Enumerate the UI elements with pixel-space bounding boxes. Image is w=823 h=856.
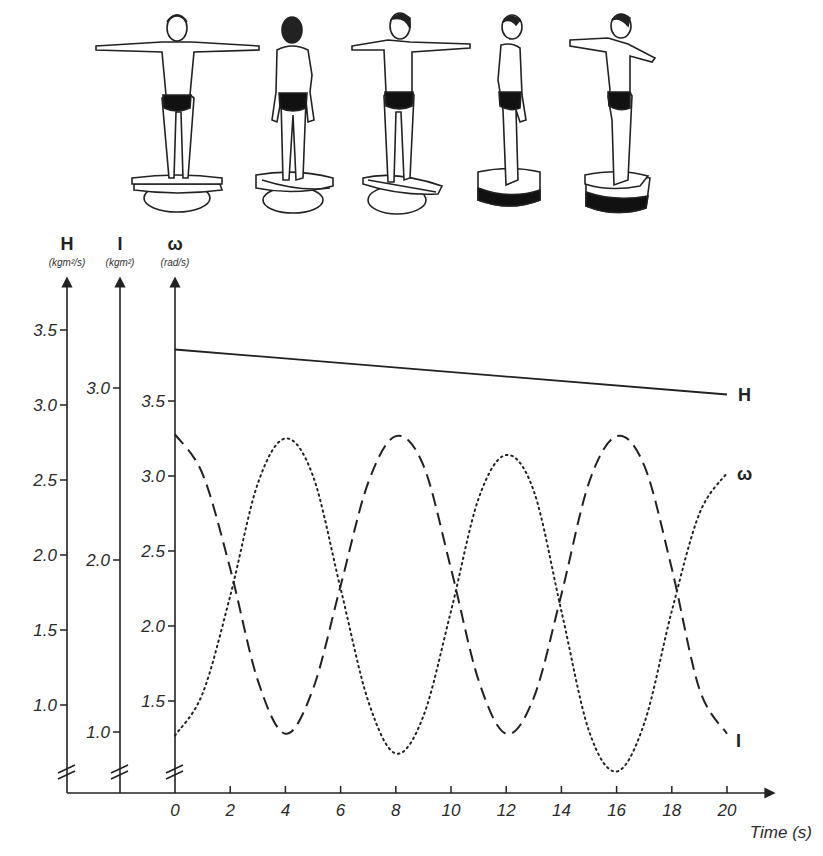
- figure-side: [478, 15, 540, 206]
- x-tick-label: 4: [281, 801, 290, 820]
- x-tick-label: 16: [607, 801, 626, 820]
- x-axis-label: Time (s): [750, 823, 812, 842]
- x-tick-label: 0: [170, 801, 180, 820]
- figure-back: [256, 17, 333, 213]
- axis-title-I: I (kgm²): [106, 234, 135, 268]
- y-tick-label: 1.0: [86, 723, 110, 742]
- axis-title-omega: ω (rad/s): [161, 234, 190, 268]
- series-label-H: H: [738, 385, 751, 405]
- figure-three-quarter: [352, 13, 470, 214]
- y-tick-label: 3.0: [86, 379, 110, 398]
- y-tick-label: 2.0: [140, 617, 165, 636]
- axis-symbol-omega: ω: [167, 234, 182, 254]
- series-line-I: [175, 434, 727, 734]
- x-tick-label: 10: [442, 801, 461, 820]
- y-ticks-H: 1.01.52.02.53.03.5: [32, 321, 67, 715]
- y-ticks-omega: 1.52.02.53.03.5: [140, 392, 175, 711]
- x-tick-label: 18: [662, 801, 681, 820]
- y-ticks-I: 1.02.03.0: [85, 379, 120, 742]
- y-tick-label: 3.0: [141, 467, 165, 486]
- x-tick-label: 8: [391, 801, 401, 820]
- x-tick-label: 12: [497, 801, 516, 820]
- chart: H (kgm²/s) I (kgm²) ω (rad/s) 1.01.52.02…: [0, 225, 823, 856]
- series-line-omega: [175, 438, 727, 771]
- x-ticks: 02468101214161820: [170, 786, 737, 820]
- y-tick-label: 2.0: [32, 546, 57, 565]
- y-tick-label: 1.0: [33, 696, 57, 715]
- y-tick-label: 2.5: [32, 471, 57, 490]
- x-tick-label: 20: [717, 801, 737, 820]
- axis-title-H: H (kgm²/s): [49, 234, 86, 268]
- axis-unit-H: (kgm²/s): [49, 257, 86, 268]
- y-tick-label: 1.5: [33, 621, 57, 640]
- y-tick-label: 3.5: [33, 321, 57, 340]
- figure-side-arms-out: [570, 14, 655, 213]
- x-tick-label: 2: [224, 801, 235, 820]
- y-tick-label: 2.0: [85, 551, 110, 570]
- y-tick-label: 3.5: [141, 392, 165, 411]
- y-tick-label: 3.0: [33, 396, 57, 415]
- x-tick-label: 6: [336, 801, 346, 820]
- axis-unit-I: (kgm²): [106, 257, 135, 268]
- series-label-I: I: [736, 731, 741, 751]
- axis-unit-omega: (rad/s): [161, 257, 190, 268]
- y-tick-label: 1.5: [141, 692, 165, 711]
- figures-illustration: [0, 0, 823, 225]
- axis-symbol-H: H: [61, 234, 74, 254]
- series-line-H: [175, 350, 727, 395]
- y-tick-label: 2.5: [140, 542, 165, 561]
- figure-front: [96, 15, 259, 212]
- x-tick-label: 14: [552, 801, 571, 820]
- series-label-omega: ω: [737, 464, 752, 484]
- axis-symbol-I: I: [117, 234, 122, 254]
